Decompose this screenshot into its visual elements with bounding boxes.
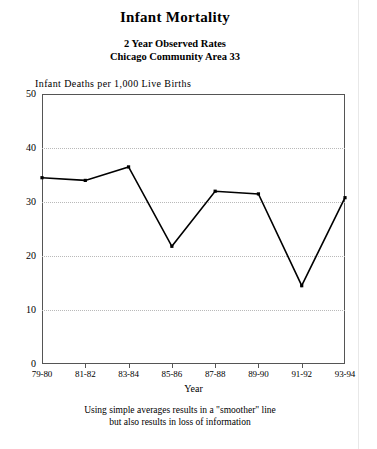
y-axis-tick-label: 10 bbox=[12, 305, 36, 315]
footnote-line-2: but also results in loss of information bbox=[0, 416, 360, 428]
x-axis-tick-mark bbox=[302, 364, 303, 368]
footnote-line-1: Using simple averages results in a "smoo… bbox=[0, 404, 360, 416]
data-point-marker bbox=[343, 196, 346, 199]
x-axis-tick-label: 87-88 bbox=[195, 369, 235, 380]
x-axis-tick-label: 91-92 bbox=[282, 369, 322, 380]
y-axis-tick-label: 0 bbox=[12, 359, 36, 369]
x-axis-tick-label: 83-84 bbox=[109, 369, 149, 380]
y-axis-tick-label: 20 bbox=[12, 251, 36, 261]
x-axis-title: Year bbox=[42, 383, 345, 394]
x-axis-tick-label: 81-82 bbox=[65, 369, 105, 380]
x-axis-tick-label: 85-86 bbox=[152, 369, 192, 380]
data-line-series bbox=[42, 94, 345, 364]
data-point-marker bbox=[257, 192, 260, 195]
plot-area: 01020304050 79-8081-8283-8485-8687-8889-… bbox=[0, 0, 377, 449]
y-axis-tick-label: 30 bbox=[12, 197, 36, 207]
data-point-marker bbox=[84, 179, 87, 182]
series-polyline bbox=[42, 167, 345, 286]
x-axis-tick-mark bbox=[129, 364, 130, 368]
y-axis-tick-label: 40 bbox=[12, 143, 36, 153]
data-point-marker bbox=[40, 176, 43, 179]
x-axis-tick-label: 93-94 bbox=[325, 369, 365, 380]
data-point-marker bbox=[127, 165, 130, 168]
data-point-marker bbox=[214, 190, 217, 193]
y-axis-tick-label: 50 bbox=[12, 89, 36, 99]
x-axis-tick-mark bbox=[215, 364, 216, 368]
x-axis-tick-label: 79-80 bbox=[22, 369, 62, 380]
x-axis-tick-label: 89-90 bbox=[238, 369, 278, 380]
x-axis-tick-mark bbox=[172, 364, 173, 368]
data-point-marker bbox=[300, 284, 303, 287]
x-axis-tick-mark bbox=[258, 364, 259, 368]
x-axis-tick-mark bbox=[85, 364, 86, 368]
chart-footnote: Using simple averages results in a "smoo… bbox=[0, 404, 360, 428]
data-point-marker bbox=[170, 245, 173, 248]
